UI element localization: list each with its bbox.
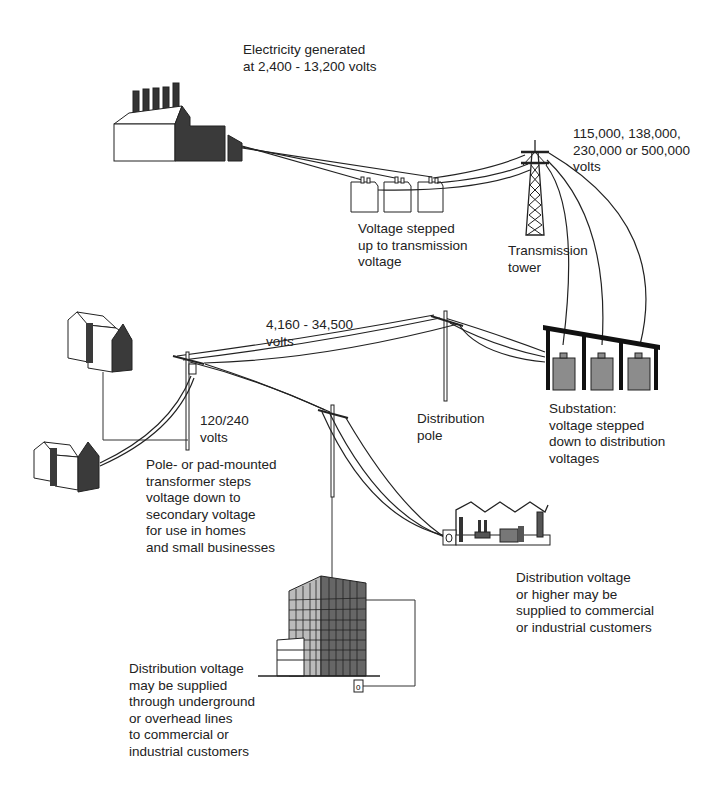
label-step-up: Voltage stepped up to transmission volta… (358, 221, 468, 271)
power-plant-icon (114, 83, 242, 161)
distribution-pole-icon (431, 311, 463, 401)
svg-text:0: 0 (356, 683, 361, 692)
label-transmission-tower: Transmission tower (508, 243, 588, 276)
label-generation: Electricity generated at 2,400 - 13,200 … (243, 42, 377, 75)
label-distribution-pole: Distribution pole (417, 411, 485, 444)
label-pole-transformer: Pole- or pad-mounted transformer steps v… (146, 457, 277, 556)
label-substation: Substation: voltage stepped down to dist… (549, 401, 665, 467)
label-secondary-voltage: 120/240 volts (200, 413, 249, 446)
label-transmission-voltage: 115,000, 138,000, 230,000 or 500,000 vol… (573, 126, 690, 176)
label-commercial-supply: Distribution voltage may be supplied thr… (129, 661, 255, 760)
step-up-transformers-icon (351, 177, 443, 212)
label-industrial-supply: Distribution voltage or higher may be su… (516, 570, 654, 636)
house-icon (68, 312, 132, 372)
transmission-tower-icon (521, 140, 549, 235)
label-distribution-voltage: 4,160 - 34,500 volts (266, 317, 353, 350)
office-building-icon: 0 (258, 576, 380, 692)
house-icon (34, 442, 99, 492)
factory-icon (443, 502, 550, 545)
power-grid-diagram: 0 (0, 0, 713, 799)
